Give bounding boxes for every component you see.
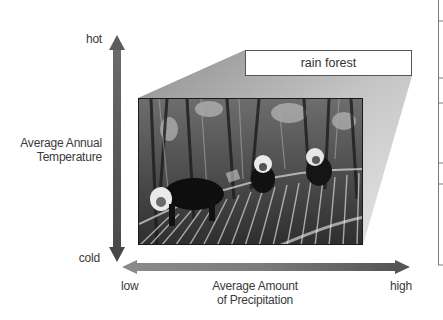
temperature-axis-arrow (109, 35, 125, 262)
temperature-low-label: cold (60, 251, 100, 265)
side-table-frame (438, 0, 443, 265)
precipitation-axis-arrow (122, 260, 410, 274)
rain-forest-photo (138, 98, 363, 245)
biome-label-box: rain forest (245, 50, 412, 76)
temperature-axis-title: Average Annual Temperature (2, 136, 102, 164)
temperature-axis-title-line2: Temperature (2, 150, 102, 164)
monkey-palm-image (139, 99, 363, 245)
biome-label: rain forest (301, 56, 357, 70)
precipitation-axis-title: Average Amount of Precipitation (205, 279, 305, 307)
temperature-high-label: hot (60, 32, 102, 46)
temperature-axis-title-line1: Average Annual (2, 136, 102, 150)
precipitation-high-label: high (390, 279, 412, 293)
precipitation-axis-title-line1: Average Amount (205, 279, 305, 293)
precipitation-axis-title-line2: of Precipitation (205, 293, 305, 307)
precipitation-low-label: low (121, 279, 138, 293)
